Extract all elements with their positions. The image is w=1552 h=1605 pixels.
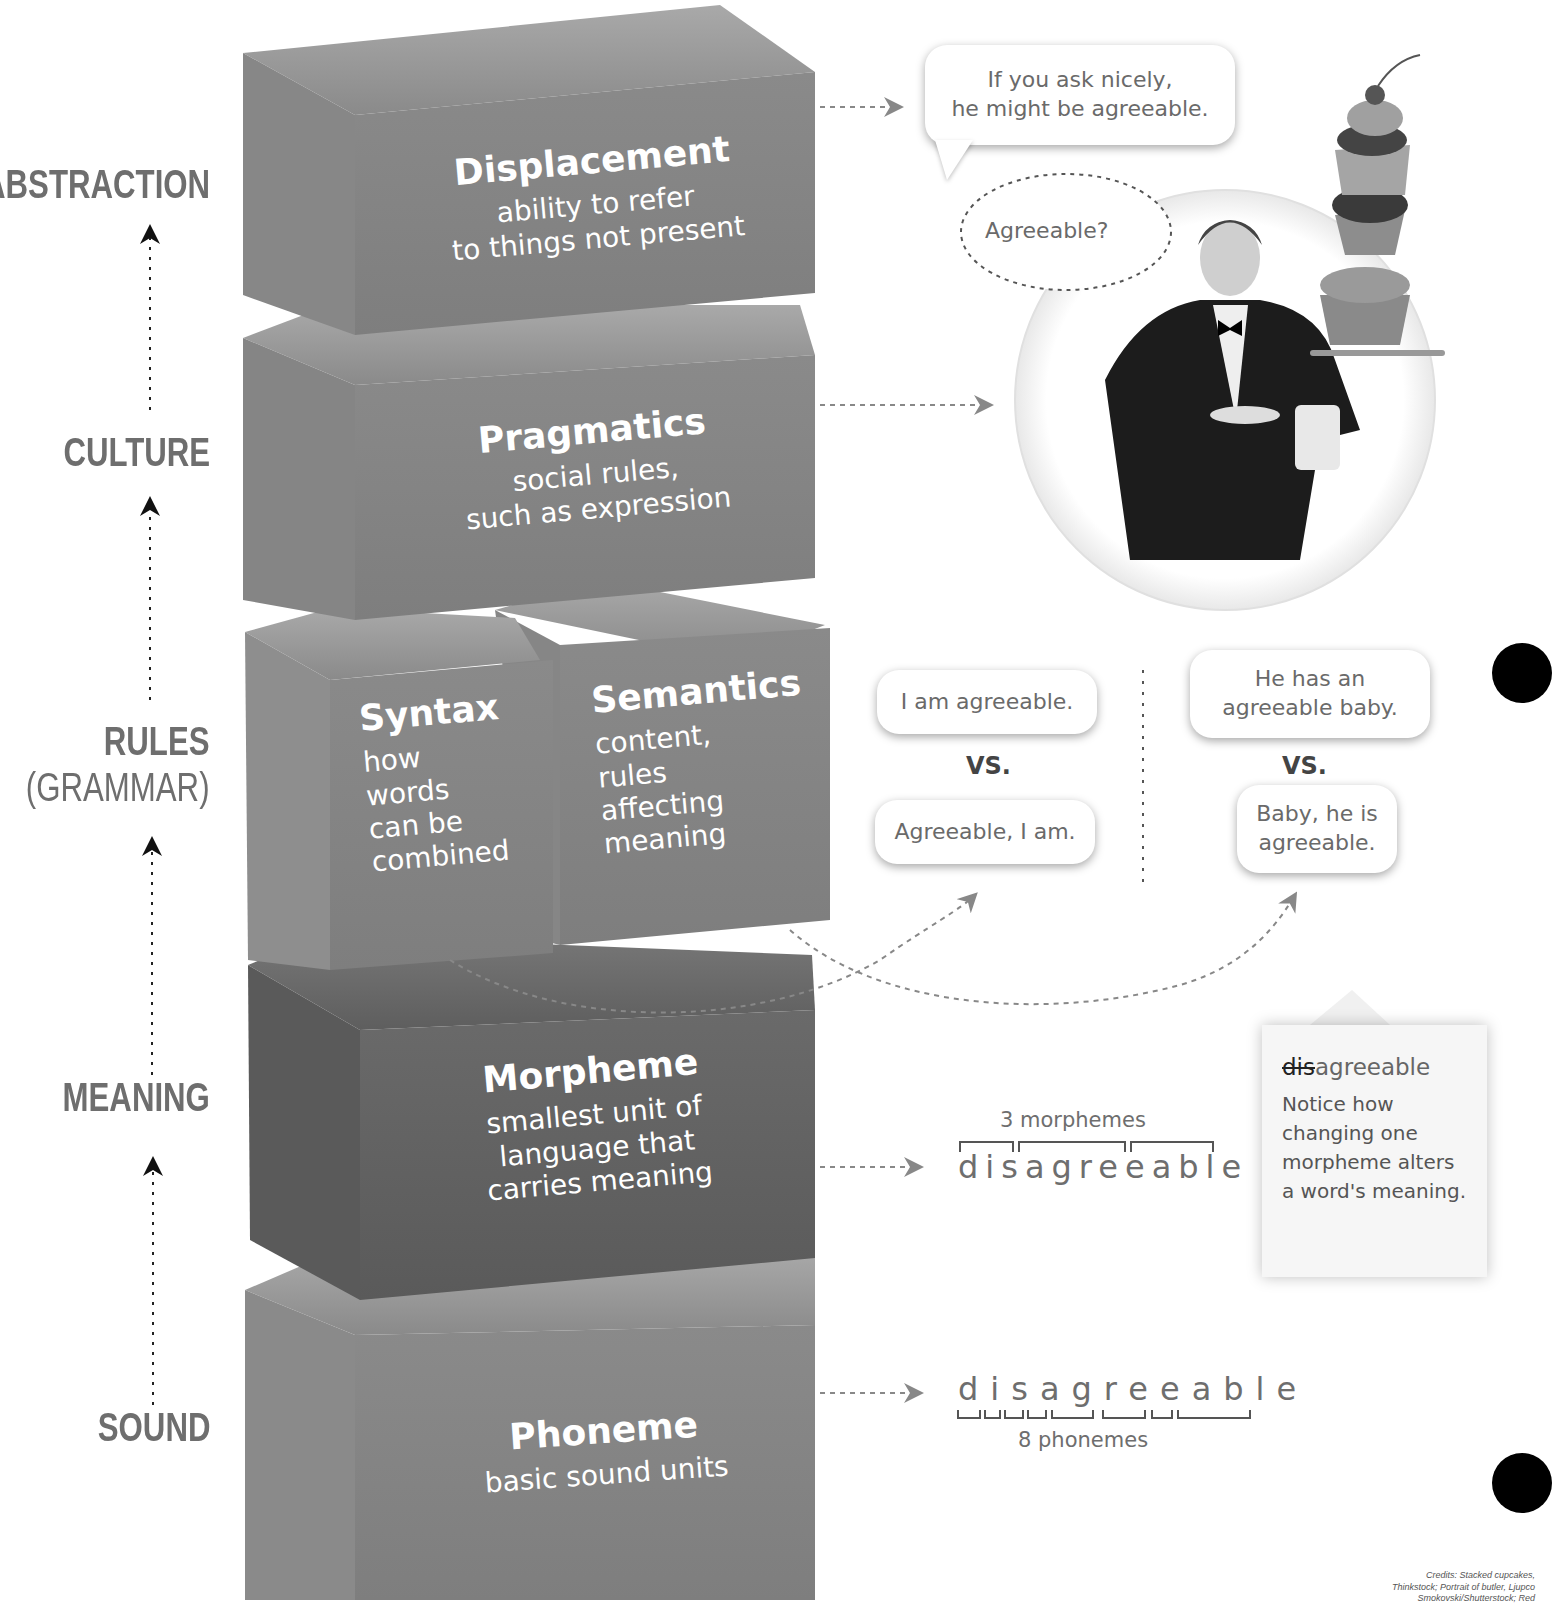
phoneme-caption: 8 phonemes [1018,1428,1148,1452]
butler-thought-text: Agreeable? [985,218,1108,243]
morpheme-caption: 3 morphemes [1000,1108,1146,1132]
semantics-vs: VS. [1282,752,1327,780]
semantics-text: Semantics content, rules affecting meani… [590,661,830,861]
level-arrows [150,228,153,1405]
syntax-text: Syntax how words can be combined [357,682,552,878]
level-rules: RULES(GRAMMAR) [26,718,210,810]
note-word-rest: agreeable [1315,1054,1430,1080]
bubble-tail [935,140,973,180]
semantics-example-b: Baby, he is agreeable. [1237,785,1397,873]
note-word: disagreeable [1282,1051,1467,1084]
credits: Credits: Stacked cupcakes, Thinkstock; P… [1385,1570,1535,1605]
note-text: Notice how changing one morpheme alters … [1282,1090,1467,1206]
struck-prefix: dis [1282,1054,1315,1080]
syntax-desc: how words can be combined [362,731,553,878]
level-rules-sub: (GRAMMAR) [26,764,210,810]
morpheme-note: disagreeable Notice how changing one mor… [1262,1025,1487,1277]
displacement-example-bubble: If you ask nicely, he might be agreeable… [925,45,1235,145]
binder-hole-top [1492,643,1552,703]
semantics-example-a: He has an agreeable baby. [1190,650,1430,738]
morpheme-word: disagreeable [958,1148,1248,1186]
level-culture: CULTURE [63,430,210,475]
phoneme-word: disagreeable [958,1370,1308,1408]
level-meaning: MEANING [63,1075,210,1120]
note-pointer [1310,990,1390,1025]
level-abstraction: ABSTRACTION [0,162,210,207]
syntax-vs: VS. [966,752,1011,780]
syntax-example-b: Agreeable, I am. [875,800,1095,864]
syntax-example-a: I am agreeable. [877,670,1097,734]
binder-hole-bottom [1492,1453,1552,1513]
semantics-desc: content, rules affecting meaning [594,709,830,860]
level-sound: SOUND [97,1405,210,1450]
